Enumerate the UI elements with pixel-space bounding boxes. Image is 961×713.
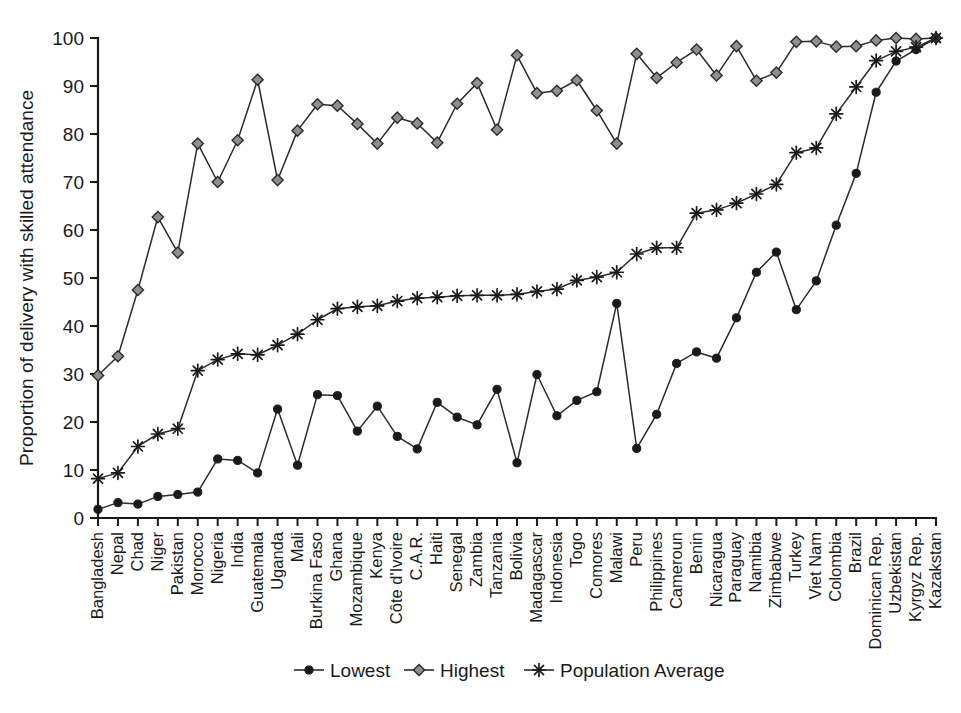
x-axis: [98, 518, 936, 526]
x-tick-label: Comores: [587, 532, 605, 599]
x-tick-label: Haiti: [427, 532, 445, 565]
x-tick-label: Uganda: [268, 531, 286, 590]
x-tick-label: Kyrgyz Rep.: [906, 532, 924, 622]
y-tick-label: 60: [63, 220, 84, 241]
x-tick-label: Indonesia: [547, 531, 565, 603]
x-tick-label: Chad: [128, 532, 146, 571]
x-tick-label: Pakistan: [168, 532, 186, 595]
y-tick-label: 20: [63, 412, 84, 433]
series-lowest: [94, 34, 940, 514]
y-tick-label: 30: [63, 364, 84, 385]
y-axis-title: Proportion of delivery with skilled atte…: [16, 90, 37, 466]
series-highest: [92, 32, 941, 381]
x-tick-label: Bolivia: [507, 531, 525, 580]
category-labels: BangladeshNepalChadNigerPakistanMoroccoN…: [88, 531, 944, 649]
y-axis-title-text: Proportion of delivery with skilled atte…: [16, 90, 37, 466]
x-tick-label: Ghana: [327, 531, 345, 581]
x-tick-label: Bangladesh: [88, 532, 106, 619]
x-tick-label: Philippines: [647, 532, 665, 612]
legend-item-lowest[interactable]: Lowest: [294, 660, 391, 681]
y-tick-label: 80: [63, 124, 84, 145]
series-layer: [92, 32, 943, 514]
x-tick-label: Mali: [288, 532, 306, 562]
x-tick-label: Paraguay: [726, 531, 744, 602]
y-tick-label: 50: [63, 268, 84, 289]
x-tick-label: Nepal: [108, 532, 126, 575]
x-tick-label: Guatemala: [248, 531, 266, 613]
x-tick-label: Tanzania: [487, 531, 505, 598]
legend-item-population-average[interactable]: Population Average: [524, 660, 724, 681]
x-tick-label: Malawi: [607, 532, 625, 583]
series-population-average: [92, 32, 943, 485]
y-tick-label: 0: [73, 508, 84, 529]
chart-container: 0102030405060708090100 Proportion of del…: [0, 0, 961, 713]
x-tick-label: Burkina Faso: [307, 532, 325, 629]
x-tick-label: Mozambique: [347, 532, 365, 626]
x-tick-label: Niger: [148, 532, 166, 572]
x-tick-label: Senegal: [447, 532, 465, 593]
y-tick-label: 70: [63, 172, 84, 193]
x-tick-label: Benin: [687, 532, 705, 574]
legend-item-highest[interactable]: Highest: [404, 660, 505, 681]
series-markers: [92, 32, 941, 381]
x-tick-label: Dominican Rep.: [866, 532, 884, 649]
x-tick-label: Uzbekistan: [886, 532, 904, 614]
x-tick-label: Kazakstan: [926, 532, 944, 609]
series-markers: [94, 34, 940, 514]
x-tick-label: Morocco: [188, 532, 206, 595]
x-tick-label: Nigeria: [208, 531, 226, 584]
x-tick-label: Brazil: [846, 532, 864, 573]
x-tick-label: India: [228, 531, 246, 568]
x-tick-label: Colombia: [826, 531, 844, 602]
x-tick-label: Viet Nam: [806, 532, 824, 600]
skilled-attendance-line-chart: 0102030405060708090100 Proportion of del…: [0, 0, 961, 713]
y-tick-label: 90: [63, 76, 84, 97]
series-markers: [92, 32, 943, 485]
x-tick-label: Namibia: [746, 531, 764, 592]
x-tick-label: Nicaragua: [707, 531, 725, 607]
legend-label: Population Average: [560, 660, 724, 681]
x-tick-label: Kenya: [367, 531, 385, 579]
y-tick-label: 100: [52, 28, 84, 49]
x-tick-label: Togo: [567, 532, 585, 568]
chart-legend: LowestHighestPopulation Average: [294, 660, 724, 681]
x-tick-label: Peru: [627, 532, 645, 567]
x-tick-label: Madagascar: [527, 532, 545, 623]
y-axis: 0102030405060708090100: [52, 28, 98, 529]
x-tick-label: Côte d'Ivoire: [387, 532, 405, 624]
x-tick-label: Zambia: [467, 531, 485, 587]
x-tick-label: C.A.R.: [407, 532, 425, 581]
legend-label: Highest: [440, 660, 505, 681]
x-tick-label: Zimbabwe: [766, 532, 784, 608]
y-tick-label: 40: [63, 316, 84, 337]
x-tick-label: Turkey: [786, 531, 804, 582]
x-tick-label: Cameroun: [667, 532, 685, 609]
legend-label: Lowest: [330, 660, 391, 681]
y-tick-label: 10: [63, 460, 84, 481]
